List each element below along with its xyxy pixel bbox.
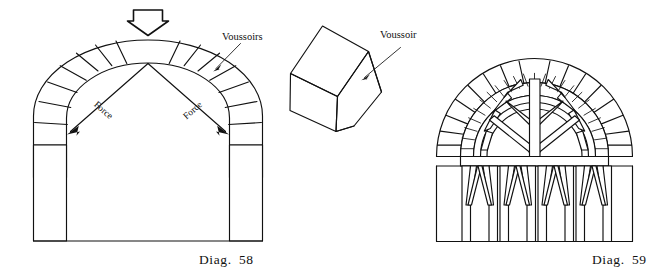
diagram-plate: Force Force Voussoirs Diag. 58 [0,0,672,271]
caption-59-number: 59 [632,252,647,267]
caption-diag-58: Diag. 58 [199,252,254,267]
caption-diag-59: Diag. 59 [592,252,647,267]
voussoir-block-label: Voussoir [380,29,417,40]
caption-58-prefix: Diag. [199,252,232,267]
caption-59-prefix: Diag. [592,252,625,267]
voussoirs-label: Voussoirs [222,31,263,42]
scaffold-structure [437,166,633,242]
caption-58-number: 58 [239,252,254,267]
figure-root: Force Force Voussoirs Diag. 58 [0,0,672,271]
